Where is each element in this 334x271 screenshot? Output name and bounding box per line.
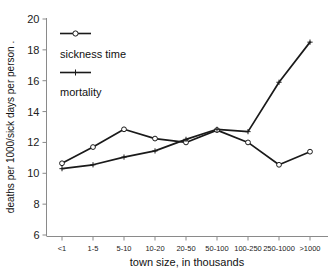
legend-label-sickness-time: sickness time	[60, 48, 126, 60]
x-tick-label: >1000	[299, 244, 320, 253]
legend-item-sickness-time: sickness time	[60, 31, 126, 60]
data-point-marker	[277, 162, 282, 167]
data-point-marker	[122, 127, 127, 132]
series-layer	[62, 42, 310, 169]
y-tick-label: 14	[27, 106, 39, 118]
series-line-sickness-time	[62, 129, 310, 164]
data-point-marker	[91, 145, 96, 150]
y-tick-label: 10	[27, 167, 39, 179]
x-tick-group	[62, 237, 310, 241]
chart-legend: sickness time mortality	[60, 31, 126, 98]
x-tick-label: 250-1000	[263, 244, 295, 253]
open-circle-icon	[73, 31, 78, 36]
y-tick-group	[43, 19, 47, 235]
y-tick-label: 8	[33, 198, 39, 210]
y-tick-label: 6	[33, 229, 39, 241]
y-tick-label: 20	[27, 13, 39, 25]
legend-item-mortality: mortality	[60, 70, 102, 99]
data-point-marker	[153, 136, 158, 141]
x-tick-label: 5-10	[116, 244, 131, 253]
y-tick-label: 12	[27, 136, 39, 148]
data-point-marker	[246, 140, 251, 145]
line-chart: 68101214161820 <11-55-1010-2020-5050-100…	[0, 0, 334, 271]
y-tick-label-group: 68101214161820	[27, 13, 39, 241]
data-point-marker	[60, 161, 65, 166]
series-line-mortality	[62, 42, 310, 169]
y-tick-label: 18	[27, 44, 39, 56]
x-tick-label: 50-100	[205, 244, 228, 253]
legend-label-mortality: mortality	[60, 86, 102, 98]
y-axis-title: deaths per 1000/sick days per person .	[5, 41, 16, 213]
x-tick-label: 10-20	[145, 244, 164, 253]
y-tick-label: 16	[27, 75, 39, 87]
x-axis-title: town size, in thousands	[130, 256, 245, 268]
x-tick-label: 20-50	[176, 244, 195, 253]
x-tick-label-group: <11-55-1010-2020-5050-100100-250250-1000…	[58, 244, 321, 253]
data-point-marker	[308, 149, 313, 154]
x-tick-label: 1-5	[88, 244, 99, 253]
x-tick-label: <1	[58, 244, 67, 253]
x-tick-label: 100-250	[234, 244, 262, 253]
chart-container: 68101214161820 <11-55-1010-2020-5050-100…	[0, 0, 334, 271]
